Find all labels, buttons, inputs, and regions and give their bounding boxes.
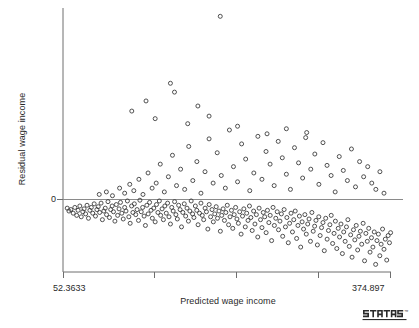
data-point xyxy=(127,215,131,219)
data-point xyxy=(344,225,348,229)
data-point xyxy=(238,210,242,214)
data-point xyxy=(335,247,339,251)
data-point xyxy=(172,90,176,94)
data-point xyxy=(107,216,111,220)
data-point xyxy=(321,141,325,145)
data-point xyxy=(270,239,274,243)
data-point xyxy=(225,203,229,207)
data-point xyxy=(106,200,110,204)
data-point xyxy=(325,163,329,167)
data-point xyxy=(207,203,211,207)
data-point xyxy=(144,99,148,103)
data-point xyxy=(223,186,227,190)
data-point xyxy=(252,171,256,175)
data-point xyxy=(173,200,177,204)
data-point xyxy=(199,201,203,205)
data-point xyxy=(274,216,278,220)
data-point xyxy=(304,136,308,140)
data-point xyxy=(168,222,172,226)
data-point xyxy=(124,209,128,213)
data-point xyxy=(75,213,79,217)
data-point xyxy=(162,190,166,194)
y-axis-tick-label-0: 0 xyxy=(44,194,56,204)
data-point xyxy=(175,217,179,221)
data-point xyxy=(284,172,288,176)
data-point xyxy=(293,209,297,213)
stata-logo: ™ xyxy=(362,308,414,324)
data-point xyxy=(181,210,185,214)
data-point xyxy=(370,181,374,185)
data-point xyxy=(257,206,261,210)
data-point xyxy=(259,218,263,222)
data-point xyxy=(97,192,101,196)
data-point xyxy=(247,204,251,208)
data-point xyxy=(382,247,386,251)
data-point xyxy=(150,216,154,220)
data-point xyxy=(244,157,248,161)
data-point xyxy=(322,249,326,253)
data-point xyxy=(307,217,311,221)
data-point xyxy=(369,236,373,240)
data-point xyxy=(207,137,211,141)
data-point xyxy=(351,228,355,232)
data-point xyxy=(187,144,191,148)
data-point xyxy=(290,230,294,234)
data-point xyxy=(313,224,317,228)
data-point xyxy=(296,223,300,227)
data-point xyxy=(325,237,329,241)
data-point xyxy=(116,213,120,217)
data-point xyxy=(224,210,228,214)
data-point xyxy=(336,226,340,230)
data-point xyxy=(206,227,210,231)
data-point xyxy=(128,182,132,186)
data-point xyxy=(339,222,343,226)
data-point xyxy=(253,222,257,226)
data-point xyxy=(150,186,154,190)
data-point xyxy=(227,128,231,132)
data-point xyxy=(279,212,283,216)
data-point xyxy=(362,175,366,179)
data-point xyxy=(159,213,163,217)
data-point xyxy=(98,210,102,214)
data-point xyxy=(272,184,276,188)
data-point xyxy=(200,213,204,217)
data-point xyxy=(219,174,223,178)
data-point xyxy=(138,198,142,202)
data-point xyxy=(345,179,349,183)
data-point xyxy=(192,216,196,220)
data-point xyxy=(193,204,197,208)
data-point xyxy=(264,231,268,235)
data-point xyxy=(114,203,118,207)
data-point xyxy=(349,147,353,151)
data-point xyxy=(118,200,122,204)
data-point xyxy=(146,171,150,175)
data-point xyxy=(300,220,304,224)
data-point xyxy=(284,127,288,131)
data-point xyxy=(132,202,136,206)
data-point xyxy=(211,220,215,224)
data-point xyxy=(123,191,127,195)
data-point xyxy=(354,223,358,227)
data-point xyxy=(318,234,322,238)
data-point xyxy=(104,190,108,194)
data-point xyxy=(304,232,308,236)
data-point xyxy=(161,218,165,222)
data-point xyxy=(347,244,351,248)
data-point xyxy=(368,250,372,254)
data-point xyxy=(154,181,158,185)
data-point xyxy=(113,219,117,223)
data-point xyxy=(328,223,332,227)
data-point xyxy=(229,208,233,212)
data-point xyxy=(354,185,358,189)
data-point xyxy=(303,213,307,217)
data-point xyxy=(378,170,382,174)
data-point xyxy=(277,228,281,232)
data-point xyxy=(248,189,252,193)
data-point xyxy=(239,232,243,236)
data-point xyxy=(311,229,315,233)
data-point xyxy=(356,248,360,252)
data-point xyxy=(100,218,104,222)
data-point xyxy=(204,210,208,214)
data-point xyxy=(297,214,301,218)
data-point xyxy=(170,153,174,157)
